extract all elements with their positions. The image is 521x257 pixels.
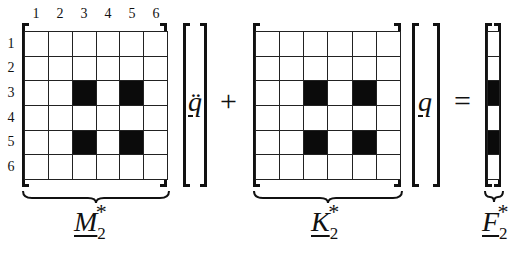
filled-cell (120, 81, 144, 106)
empty-cell (377, 155, 401, 180)
empty-cell (97, 106, 121, 131)
empty-cell (144, 131, 168, 156)
empty-cell (377, 81, 401, 106)
col-index-3: 3 (72, 6, 96, 22)
empty-cell (256, 131, 280, 156)
empty-cell (120, 106, 144, 131)
empty-cell (73, 57, 97, 82)
empty-cell (25, 57, 49, 82)
mass-matrix-superscript: * (96, 199, 107, 224)
force-vector-grid (487, 31, 500, 180)
empty-cell (328, 155, 352, 180)
empty-cell (49, 106, 73, 131)
empty-cell (144, 106, 168, 131)
empty-cell (25, 32, 49, 57)
empty-cell (25, 131, 49, 156)
empty-cell (328, 32, 352, 57)
stiffness-matrix-symbol: K (311, 206, 330, 237)
row-index-6: 6 (4, 159, 18, 175)
col-index-2: 2 (48, 6, 72, 22)
empty-cell (280, 81, 304, 106)
empty-cell (49, 81, 73, 106)
stiffness-matrix-label: K2* (311, 206, 349, 238)
filled-cell (353, 81, 377, 106)
stiffness-matrix-grid (255, 31, 401, 180)
empty-cell (377, 32, 401, 57)
empty-cell (256, 155, 280, 180)
empty-cell (304, 32, 328, 57)
empty-cell (377, 57, 401, 82)
empty-cell (256, 81, 280, 106)
force-vector-symbol: F (482, 206, 499, 237)
empty-cell (256, 57, 280, 82)
col-index-4: 4 (96, 6, 120, 22)
empty-cell (377, 106, 401, 131)
empty-cell (256, 106, 280, 131)
col-index-5: 5 (120, 6, 144, 22)
empty-cell (280, 106, 304, 131)
empty-cell (97, 32, 121, 57)
empty-cell (97, 155, 121, 180)
empty-cell (377, 131, 401, 156)
force-vector-label: F2* (482, 206, 519, 238)
empty-cell (49, 131, 73, 156)
empty-cell (488, 155, 500, 180)
displacement-vector-right-bracket (433, 23, 440, 187)
empty-cell (144, 155, 168, 180)
empty-cell (488, 32, 500, 57)
empty-cell (328, 81, 352, 106)
filled-cell (304, 131, 328, 156)
stiffness-matrix-superscript: * (328, 199, 339, 224)
empty-cell (328, 57, 352, 82)
mass-matrix-subscript: 2 (97, 224, 106, 243)
plus-operator: + (220, 84, 237, 118)
empty-cell (328, 131, 352, 156)
empty-cell (73, 32, 97, 57)
empty-cell (49, 155, 73, 180)
empty-cell (97, 57, 121, 82)
col-index-6: 6 (144, 6, 168, 22)
empty-cell (280, 57, 304, 82)
force-vector-superscript: * (498, 199, 509, 224)
acceleration-vector-label: q̈ (188, 86, 202, 118)
empty-cell (97, 81, 121, 106)
empty-cell (280, 32, 304, 57)
empty-cell (488, 57, 500, 82)
filled-cell (120, 131, 144, 156)
empty-cell (353, 106, 377, 131)
displacement-vector-label: q (418, 86, 432, 118)
row-index-1: 1 (4, 36, 18, 52)
empty-cell (488, 106, 500, 131)
empty-cell (144, 32, 168, 57)
empty-cell (97, 131, 121, 156)
empty-cell (280, 131, 304, 156)
empty-cell (25, 106, 49, 131)
row-index-5: 5 (4, 134, 18, 150)
col-index-1: 1 (24, 6, 48, 22)
filled-cell (73, 131, 97, 156)
empty-cell (304, 106, 328, 131)
empty-cell (256, 32, 280, 57)
empty-cell (73, 106, 97, 131)
empty-cell (304, 155, 328, 180)
filled-cell (488, 81, 500, 106)
empty-cell (353, 57, 377, 82)
empty-cell (49, 57, 73, 82)
empty-cell (49, 32, 73, 57)
row-index-2: 2 (4, 60, 18, 76)
filled-cell (488, 131, 500, 156)
mass-matrix-grid (24, 31, 168, 180)
row-index-4: 4 (4, 110, 18, 126)
filled-cell (353, 131, 377, 156)
row-index-3: 3 (4, 85, 18, 101)
empty-cell (144, 57, 168, 82)
force-vector-subscript: 2 (499, 224, 508, 243)
stiffness-matrix-subscript: 2 (330, 224, 339, 243)
mass-matrix-symbol: M (74, 206, 97, 237)
empty-cell (73, 155, 97, 180)
empty-cell (144, 81, 168, 106)
empty-cell (328, 106, 352, 131)
empty-cell (120, 155, 144, 180)
empty-cell (280, 155, 304, 180)
empty-cell (120, 32, 144, 57)
